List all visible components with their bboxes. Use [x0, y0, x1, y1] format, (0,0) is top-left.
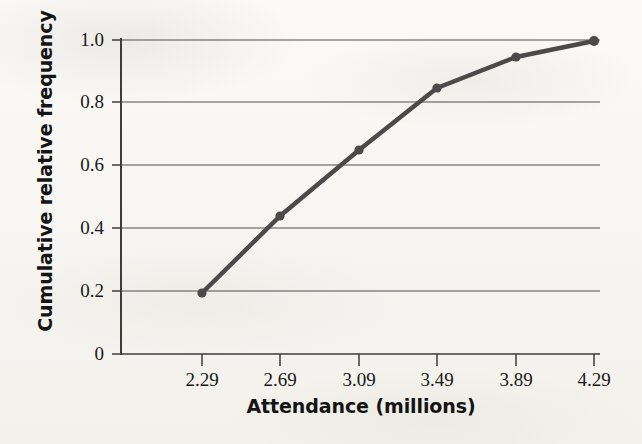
x-ticks — [202, 354, 594, 366]
axes — [121, 38, 600, 355]
x-tick-label-3.49: 3.49 — [402, 369, 472, 391]
data-point-2.69 — [275, 211, 284, 220]
data-point-3.49 — [432, 83, 441, 92]
gridlines — [121, 40, 600, 291]
y-axis-title: Cumulative relative frequency — [34, 6, 56, 336]
x-tick-label-3.09: 3.09 — [324, 369, 394, 391]
y-tick-label-0.6: 0.6 — [60, 154, 104, 176]
x-tick-label-4.29: 4.29 — [559, 369, 629, 391]
x-tick-label-2.29: 2.29 — [167, 369, 237, 391]
y-tick-label-0.4: 0.4 — [60, 217, 104, 239]
y-ticks — [112, 40, 121, 354]
y-tick-label-0.2: 0.2 — [60, 280, 104, 302]
x-tick-label-3.89: 3.89 — [481, 369, 551, 391]
y-tick-label-0.8: 0.8 — [60, 91, 104, 113]
data-series-line — [202, 41, 594, 293]
data-point-2.29 — [197, 288, 206, 297]
ogive-chart-figure: 1.0 0.8 0.6 0.4 0.2 0 2.29 2.69 3.09 3.4… — [0, 0, 642, 444]
x-tick-label-2.69: 2.69 — [245, 369, 315, 391]
data-point-3.89 — [511, 52, 520, 61]
data-point-3.09 — [354, 145, 363, 154]
y-tick-label-0: 0 — [60, 343, 104, 365]
y-tick-label-1.0: 1.0 — [60, 29, 104, 51]
data-point-4.29 — [589, 36, 599, 46]
data-point-markers — [197, 36, 599, 298]
x-axis-title: Attendance (millions) — [121, 395, 601, 417]
